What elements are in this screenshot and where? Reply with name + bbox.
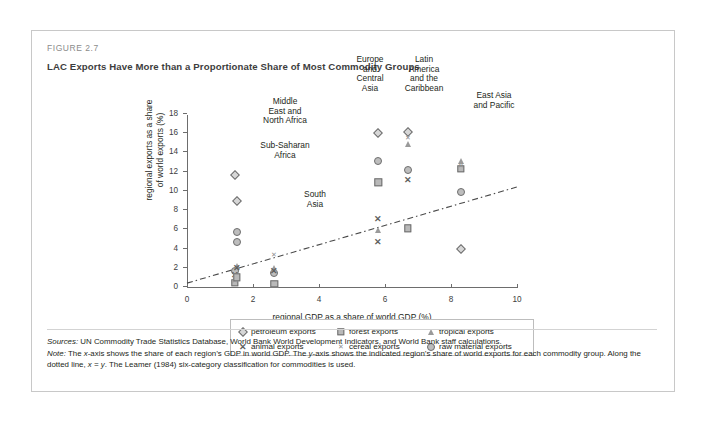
y-tick-mark-14 [183,151,187,152]
x-tick-mark-6 [385,284,386,288]
y-tick-label-4: 4 [173,243,178,252]
x-tick-mark-10 [517,284,518,288]
y-tick-label-0: 0 [173,282,178,291]
data-point-circle [457,188,465,196]
y-tick-mark-12 [183,171,187,172]
y-tick-mark-4 [183,248,187,249]
y-tick-label-16: 16 [169,128,178,137]
sources-line: Sources: UN Commodity Trade Statistics D… [47,336,655,348]
notes-divider [47,329,657,330]
note-text-1: The [66,349,84,358]
data-point-x-small: ✕ [271,252,277,259]
data-point-x-small: ✕ [458,163,464,170]
region-label-south-asia: South Asia [287,190,343,209]
data-point-triangle [375,227,381,233]
y-axis-label: regional exports as a shareof world expo… [144,90,166,210]
data-point-circle [374,157,382,165]
x-tick-label-6: 6 [383,295,388,304]
data-point-x-large: ✕ [233,263,241,272]
y-axis-label-line-0: regional exports as a share [144,90,155,210]
data-point-circle [404,166,412,174]
data-point-triangle [405,141,411,147]
y-tick-mark-10 [183,190,187,191]
note-text-4: . The Leamer (1984) six-category classif… [105,360,356,369]
y-tick-label-14: 14 [169,147,178,156]
y-axis-label-line-1: of world exports (%) [155,90,166,210]
data-point-x-large: ✕ [374,238,382,247]
y-tick-mark-16 [183,132,187,133]
y-tick-label-6: 6 [173,224,178,233]
sources-text: UN Commodity Trade Statistics Database, … [78,337,502,346]
y-tick-label-2: 2 [173,262,178,271]
data-point-square [375,178,382,185]
y-tick-mark-2 [183,267,187,268]
data-point-x-large: ✕ [404,176,412,185]
data-point-x-large: ✕ [270,266,278,275]
note-line: Note: The x-axis shows the share of each… [47,348,655,371]
note-label: Note: [47,349,66,358]
x-tick-label-0: 0 [185,295,190,304]
figure-notes: Sources: UN Commodity Trade Statistics D… [47,336,655,371]
y-tick-mark-18 [183,113,187,114]
x-tick-mark-0 [187,284,188,288]
y-tick-mark-6 [183,228,187,229]
data-point-x-large: ✕ [374,214,382,223]
sources-label: Sources: [47,337,78,346]
data-point-square [404,225,411,232]
x-tick-mark-2 [253,284,254,288]
region-label-latin-america-and-the-caribbean: Latin America and the Caribbean [393,55,455,93]
data-point-square [271,280,278,287]
figure-frame: FIGURE 2.7 LAC Exports Have More than a … [31,30,675,392]
x-tick-mark-4 [319,284,320,288]
x-tick-label-4: 4 [317,295,322,304]
figure-page: FIGURE 2.7 LAC Exports Have More than a … [0,0,702,423]
region-label-middle-east-and-north-africa: Middle East and North Africa [247,97,323,126]
figure-number: FIGURE 2.7 [47,43,99,53]
note-text-2: -axis shows the share of each region’s G… [88,349,309,358]
x-tick-mark-8 [451,284,452,288]
y-tick-mark-0 [183,286,187,287]
y-tick-mark-8 [183,209,187,210]
x-tick-label-8: 8 [449,295,454,304]
note-italic-equation: x = y [88,360,105,369]
region-label-europe-and-central-asia: Europe and Central Asia [347,55,393,93]
x-tick-label-10: 10 [512,295,521,304]
y-tick-label-10: 10 [169,185,178,194]
scatter-plot: 0246810 024681012141618 ✕✕✕✕✕✕✕✕✕✕ Middl… [187,113,517,288]
y-tick-label-18: 18 [169,109,178,118]
data-point-square [233,274,240,281]
region-label-sub-saharan-africa: Sub-Saharan Africa [242,141,328,160]
data-point-circle [233,228,241,236]
data-point-circle [233,238,241,246]
region-label-east-asia-and-pacific: East Asia and Pacific [463,91,525,110]
y-tick-label-8: 8 [173,205,178,214]
x-tick-label-2: 2 [251,295,256,304]
y-tick-label-12: 12 [169,166,178,175]
